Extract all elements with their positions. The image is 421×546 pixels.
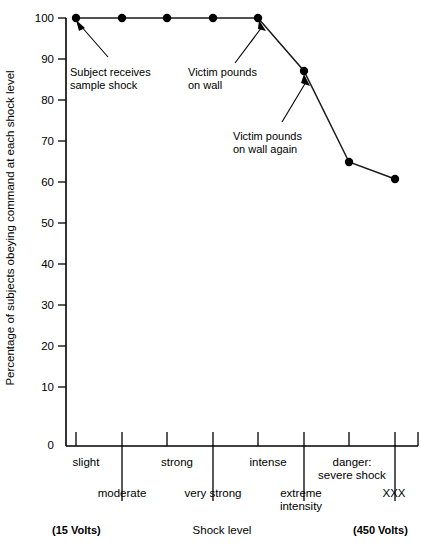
y-axis-title: Percentage of subjects obeying command a… — [4, 70, 16, 385]
x-label-strong: strong — [161, 456, 193, 468]
y-tick-label-90: 90 — [41, 53, 54, 65]
annotation-2-line-1: Victim pounds — [188, 66, 257, 78]
chart-svg: Percentage of subjects obeying command a… — [0, 0, 421, 546]
annotation-2-line-2: on wall — [188, 79, 222, 91]
data-point — [118, 14, 126, 22]
y-tick-label-40: 40 — [41, 258, 54, 270]
x-label-intense: intense — [249, 456, 286, 468]
annotation-3-line-1: Victim pounds — [233, 130, 302, 142]
data-point — [254, 14, 262, 22]
annotation-1-line-1: Subject receives — [70, 66, 151, 78]
y-tick-label-80: 80 — [41, 94, 54, 106]
annotation-arrow-line — [282, 82, 306, 122]
x-label-very-strong: very strong — [185, 487, 242, 499]
annotation-1-line-2: sample shock — [70, 79, 138, 91]
x-label-danger: danger: — [332, 456, 371, 468]
y-tick-label-100: 100 — [35, 12, 54, 24]
x-label-slight: slight — [73, 456, 101, 468]
x-label-severe-shock: severe shock — [318, 469, 386, 481]
x-label-xxx: XXX — [382, 487, 405, 499]
annotation-subject-receives-sample-shock: Subject receives sample shock — [70, 20, 151, 91]
y-tick-label-30: 30 — [41, 299, 54, 311]
y-tick-label-10: 10 — [41, 381, 54, 393]
annotation-3-line-2: on wall again — [233, 143, 297, 155]
annotation-victim-pounds-on-wall: Victim pounds on wall — [188, 20, 266, 91]
x-label-intensity: intensity — [280, 500, 322, 512]
annotation-victim-pounds-on-wall-again: Victim pounds on wall again — [233, 74, 310, 155]
milgram-obedience-chart: Percentage of subjects obeying command a… — [0, 0, 421, 546]
data-point — [209, 14, 217, 22]
y-tick-label-60: 60 — [41, 176, 54, 188]
data-point — [300, 67, 308, 75]
y-tick-label-50: 50 — [41, 217, 54, 229]
data-point — [163, 14, 171, 22]
y-axis-ticks — [58, 18, 66, 387]
x-axis-title: Shock level — [193, 524, 252, 536]
y-tick-label-20: 20 — [41, 340, 54, 352]
x-label-extreme: extreme — [280, 487, 322, 499]
data-point — [345, 158, 353, 166]
y-tick-label-0: 0 — [48, 439, 54, 451]
data-points — [72, 14, 399, 183]
annotation-arrow-line — [235, 27, 262, 63]
left-volts-note: (15 Volts) — [52, 524, 101, 536]
y-tick-label-70: 70 — [41, 135, 54, 147]
data-point — [72, 14, 80, 22]
x-label-moderate: moderate — [98, 487, 147, 499]
data-point — [391, 175, 399, 183]
right-volts-note: (450 Volts) — [353, 524, 408, 536]
annotation-arrow-line — [80, 25, 108, 57]
